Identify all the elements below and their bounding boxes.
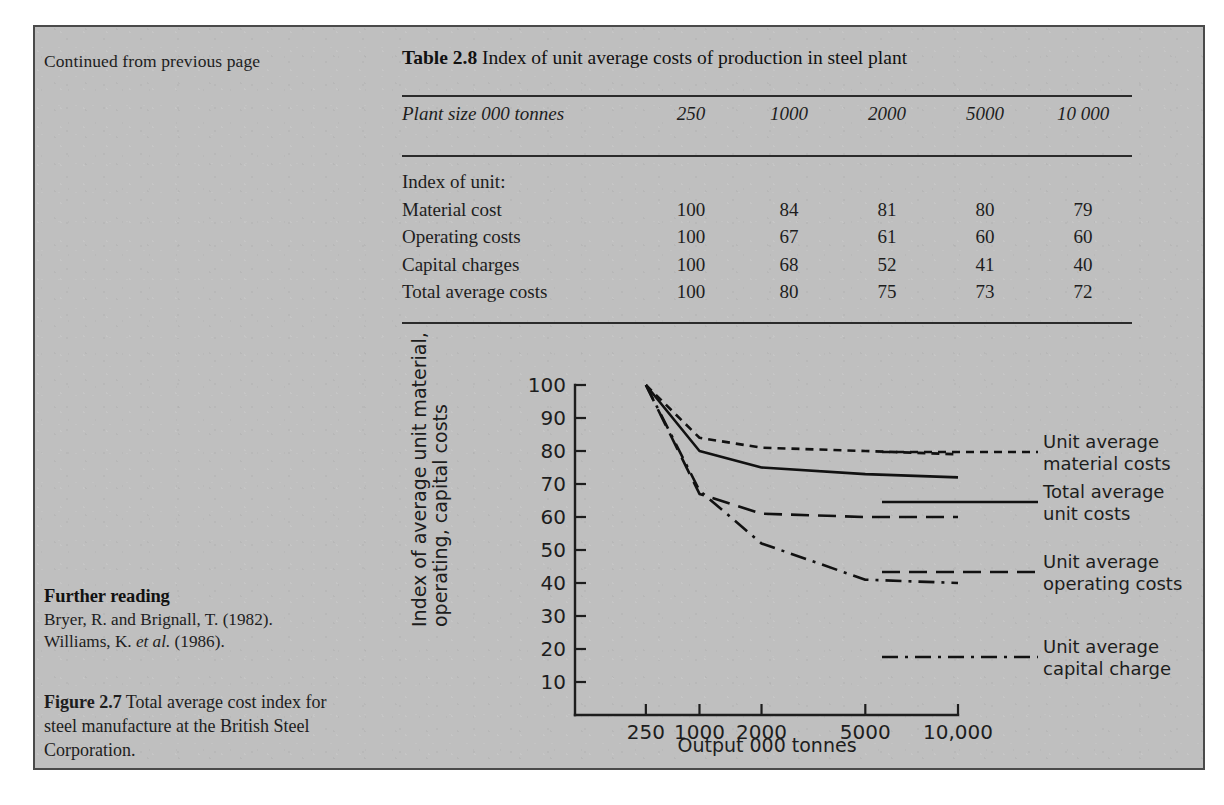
table-cell: 100	[642, 254, 740, 282]
table-cell: 80	[936, 199, 1034, 227]
table-cell: 81	[838, 199, 936, 227]
table-cell: 84	[740, 199, 838, 227]
table-cell: 73	[936, 281, 1034, 309]
figure-caption-label: Figure 2.7	[44, 692, 122, 712]
y-axis-label-line2: operating, capital costs	[429, 404, 451, 627]
table-rule-bottom	[402, 322, 1132, 324]
continued-from-previous-page-note: Continued from previous page	[44, 51, 260, 72]
y-tick-label: 50	[541, 538, 566, 562]
table-cell: 75	[838, 281, 936, 309]
table-row: Material cost 100 84 81 80 79	[402, 199, 1132, 227]
y-tick-label: 40	[541, 571, 566, 595]
y-tick-label: 10	[541, 670, 566, 694]
reference-text-tail: (1986).	[170, 632, 224, 651]
series-unit-average-capital-charge	[646, 385, 958, 583]
x-axis-label: Output 000 tonnes	[677, 734, 856, 756]
table-cell: 61	[838, 226, 936, 254]
empty-cell	[642, 171, 740, 199]
table-cell: 80	[740, 281, 838, 309]
y-tick-label: 90	[541, 406, 566, 430]
table-row-label: Material cost	[402, 199, 642, 227]
series-total-average-unit-costs	[646, 385, 958, 477]
table-title: Table 2.8 Index of unit average costs of…	[402, 47, 907, 69]
table-cell: 41	[936, 254, 1034, 282]
table-spacer-row	[402, 147, 1132, 171]
legend-label-line2: capital charge	[1043, 658, 1171, 679]
table-row: Capital charges 100 68 52 41 40	[402, 254, 1132, 282]
empty-cell	[1034, 171, 1132, 199]
legend-label-line1: Unit average	[1043, 431, 1159, 452]
reference-text: Williams, K.	[44, 632, 136, 651]
y-tick-label: 70	[541, 472, 566, 496]
table-cell: 79	[1034, 199, 1132, 227]
table-column-header: 2000	[838, 103, 936, 147]
legend-label-line2: material costs	[1043, 453, 1171, 474]
table-row-label: Total average costs	[402, 281, 642, 309]
left-column: Continued from previous page Further rea…	[40, 33, 370, 766]
costs-table: Plant size 000 tonnes 250 1000 2000 5000…	[402, 103, 1132, 309]
table-spacer-cell	[402, 147, 1132, 171]
table-title-body: Index of unit average costs of productio…	[482, 47, 907, 68]
table-cell: 67	[740, 226, 838, 254]
empty-cell	[838, 171, 936, 199]
legend-label-line2: operating costs	[1043, 573, 1182, 594]
empty-cell	[936, 171, 1034, 199]
y-tick-group: 102030405060708090100	[528, 373, 586, 694]
table-row-label: Capital charges	[402, 254, 642, 282]
y-tick-label: 20	[541, 637, 566, 661]
table-cell: 100	[642, 281, 740, 309]
legend-label-line1: Total average	[1042, 481, 1164, 502]
table-cell: 52	[838, 254, 936, 282]
chart-svg: Index of average unit material, operatin…	[402, 327, 1202, 757]
further-reading-heading: Further reading	[44, 586, 364, 607]
table-cell: 60	[936, 226, 1034, 254]
table-column-header: 10 000	[1034, 103, 1132, 147]
legend-label-line2: unit costs	[1043, 503, 1130, 524]
figure-2-7-chart: Index of average unit material, operatin…	[402, 327, 1202, 757]
y-tick-label: 30	[541, 604, 566, 628]
x-tick-label: 250	[627, 720, 665, 744]
table-column-header: 1000	[740, 103, 838, 147]
table-rule-top	[402, 95, 1132, 97]
page-frame: Continued from previous page Further rea…	[33, 25, 1205, 770]
table-cell: 100	[642, 226, 740, 254]
table-row: Total average costs 100 80 75 73 72	[402, 281, 1132, 309]
y-axis-label-line1: Index of average unit material,	[408, 332, 430, 627]
y-tick-label: 80	[541, 439, 566, 463]
table-cell: 100	[642, 199, 740, 227]
further-reading-entry: Williams, K. et al. (1986).	[44, 631, 364, 653]
further-reading-block: Further reading Bryer, R. and Brignall, …	[44, 586, 364, 653]
figure-caption: Figure 2.7 Total average cost index for …	[44, 691, 362, 763]
table-row: Operating costs 100 67 61 60 60	[402, 226, 1132, 254]
table-cell: 68	[740, 254, 838, 282]
table-label: Table 2.8	[402, 47, 477, 68]
table-header-row: Plant size 000 tonnes 250 1000 2000 5000…	[402, 103, 1132, 147]
empty-cell	[740, 171, 838, 199]
y-tick-label: 100	[528, 373, 566, 397]
table-cell: 60	[1034, 226, 1132, 254]
table-section-label: Index of unit:	[402, 171, 642, 199]
table-column-header: 250	[642, 103, 740, 147]
further-reading-entry: Bryer, R. and Brignall, T. (1982).	[44, 609, 364, 631]
table-row-label: Operating costs	[402, 226, 642, 254]
legend-label-line1: Unit average	[1043, 551, 1159, 572]
table-cell: 72	[1034, 281, 1132, 309]
reference-text: Bryer, R. and Brignall, T. (1982).	[44, 610, 273, 629]
table-cell: 40	[1034, 254, 1132, 282]
x-tick-label: 10,000	[923, 720, 993, 744]
table-section-label-row: Index of unit:	[402, 171, 1132, 199]
reference-italic: et al.	[136, 632, 170, 651]
legend-label-line1: Unit average	[1043, 636, 1159, 657]
table-column-header: 5000	[936, 103, 1034, 147]
y-tick-label: 60	[541, 505, 566, 529]
chart-legend: Unit averagematerial costsTotal averageu…	[882, 431, 1182, 679]
table-header-label: Plant size 000 tonnes	[402, 103, 642, 147]
